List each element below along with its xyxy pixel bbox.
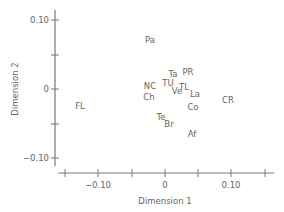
x-axis-title: Dimension 1 — [138, 196, 191, 206]
scatter-chart: 0.10 0 −0.10 Dimension 2 −0.10 0 0.10 Di… — [0, 0, 284, 212]
y-axis-title: Dimension 2 — [10, 62, 20, 115]
point-labels: Pa Ta PR NC TU Ve TL La Ch Co CR FL Te B… — [75, 35, 234, 139]
y-tick-label: 0 — [44, 84, 49, 94]
x-tick-label: −0.10 — [85, 180, 111, 190]
point-label-fl: FL — [75, 101, 85, 111]
point-label-pa: Pa — [145, 35, 155, 45]
point-label-af: Af — [188, 129, 198, 139]
x-tick-label: 0.10 — [222, 180, 241, 190]
x-axis: −0.10 0 0.10 Dimension 1 — [58, 169, 274, 206]
x-tick-label: 0 — [162, 180, 167, 190]
point-label-br: Br — [164, 119, 174, 129]
point-label-cr: CR — [222, 95, 234, 105]
point-label-la: La — [190, 89, 200, 99]
point-label-pr: PR — [182, 67, 193, 77]
y-tick-label: −0.10 — [23, 153, 49, 163]
point-label-tl: TL — [178, 82, 189, 92]
y-tick-label: 0.10 — [30, 15, 49, 25]
point-label-nc: NC — [144, 81, 156, 91]
point-label-co: Co — [187, 102, 198, 112]
point-label-ch: Ch — [143, 92, 154, 102]
y-axis: 0.10 0 −0.10 Dimension 2 — [10, 10, 59, 166]
